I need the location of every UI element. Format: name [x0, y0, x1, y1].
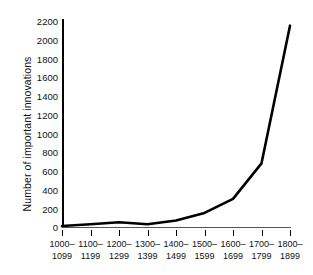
x-axis-tick-mark	[119, 230, 120, 236]
y-axis-tick-label: 800	[42, 148, 58, 158]
y-axis-tick-label: 2000	[37, 35, 58, 45]
y-axis-tick-label: 600	[42, 167, 58, 177]
y-axis-tick-label: 2200	[37, 17, 58, 27]
y-axis-tick-label: 400	[42, 185, 58, 195]
x-axis-tick-mark	[205, 230, 206, 236]
x-axis-tick-label: 1800– 1899	[271, 239, 309, 262]
x-axis-tick-mark	[262, 230, 263, 236]
y-axis-tick-label: 0	[53, 223, 58, 233]
data-series-line	[62, 21, 291, 231]
x-axis-tick-mark	[176, 230, 177, 236]
x-axis-tick-mark	[91, 230, 92, 236]
y-axis-tick-label: 1400	[37, 92, 58, 102]
y-axis-title: Number of important innovations	[21, 39, 33, 229]
y-axis-tick-label: 1600	[37, 73, 58, 83]
y-axis-tick-label: 200	[42, 204, 58, 214]
line-chart: Number of important innovations 02004006…	[0, 0, 313, 275]
y-axis-tick-label: 1800	[37, 54, 58, 64]
x-axis-tick-mark	[233, 230, 234, 236]
x-axis-tick-mark	[290, 230, 291, 236]
y-axis-tick-label: 1200	[37, 110, 58, 120]
y-axis-tick-label: 1000	[37, 129, 58, 139]
plot-area	[62, 21, 290, 227]
x-axis-tick-mark	[148, 230, 149, 236]
x-axis-tick-mark	[62, 230, 63, 236]
